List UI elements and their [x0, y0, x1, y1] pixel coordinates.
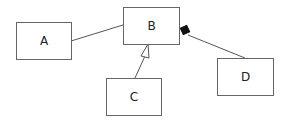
class-box-c[interactable]: C	[106, 78, 162, 116]
class-box-b[interactable]: B	[123, 7, 180, 45]
class-label: A	[40, 34, 48, 48]
composition-diamond-icon	[179, 24, 192, 37]
edge-c-b-generalization	[135, 56, 145, 78]
class-label: B	[147, 19, 155, 33]
class-label: D	[241, 70, 250, 84]
edge-a-b-association	[71, 25, 123, 41]
generalization-arrow-icon	[141, 44, 149, 58]
class-box-d[interactable]: D	[217, 58, 274, 96]
class-box-a[interactable]: A	[16, 22, 72, 60]
class-label: C	[130, 90, 138, 104]
edge-d-b-composition	[188, 35, 245, 58]
